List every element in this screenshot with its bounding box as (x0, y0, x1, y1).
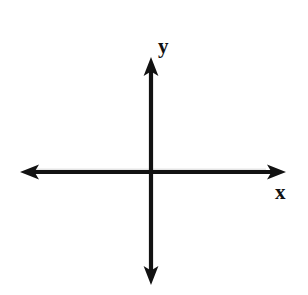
x-axis-label: x (275, 182, 286, 203)
figure-background (0, 0, 308, 295)
coordinate-axes-drawing (0, 0, 308, 295)
coordinate-axes-figure: y x (0, 0, 308, 295)
y-axis-label: y (158, 36, 169, 57)
